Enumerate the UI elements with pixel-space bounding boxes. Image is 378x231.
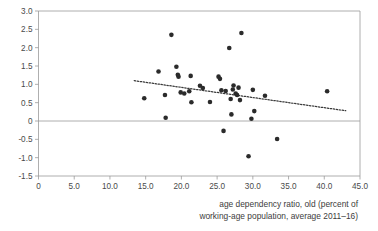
- y-tick-label: 3.0: [21, 7, 33, 16]
- data-point: [163, 93, 168, 98]
- scatter-chart: -1.5-1.0-0.500.51.01.52.02.53.0 05.010.0…: [0, 0, 378, 231]
- plot-frame: [39, 11, 361, 176]
- y-tick-label: 1.5: [21, 62, 33, 71]
- data-point: [174, 64, 179, 69]
- data-point: [231, 87, 236, 92]
- data-point: [251, 88, 256, 93]
- x-axis-tick-labels: 05.010.015.020.025.030.035.040.045.0: [36, 182, 368, 191]
- data-point: [231, 83, 236, 88]
- y-axis-ticks: [35, 11, 39, 176]
- data-point: [218, 77, 223, 82]
- y-tick-label: 2.0: [21, 44, 33, 53]
- data-point: [325, 89, 330, 94]
- data-point: [223, 89, 228, 94]
- data-point: [142, 96, 147, 101]
- x-tick-label: 15.0: [138, 182, 154, 191]
- data-point: [249, 117, 254, 122]
- x-tick-label: 30.0: [245, 182, 261, 191]
- y-tick-label: -0.5: [18, 135, 33, 144]
- data-point: [239, 31, 244, 36]
- data-point: [246, 154, 251, 159]
- x-axis-ticks: [39, 176, 361, 180]
- data-point: [169, 33, 174, 38]
- y-tick-label: 0.5: [21, 99, 33, 108]
- y-tick-label: -1.0: [18, 154, 33, 163]
- x-tick-label: 25.0: [209, 182, 225, 191]
- data-point: [229, 112, 234, 117]
- data-point: [201, 86, 206, 91]
- data-point: [163, 115, 168, 120]
- x-tick-label: 35.0: [281, 182, 297, 191]
- x-tick-label: 20.0: [173, 182, 189, 191]
- y-tick-label: 2.5: [21, 25, 33, 34]
- data-point: [228, 97, 233, 102]
- x-tick-label: 10.0: [102, 182, 118, 191]
- data-point: [252, 109, 257, 114]
- data-point: [182, 91, 187, 96]
- data-point: [263, 93, 268, 98]
- chart-canvas: -1.5-1.0-0.500.51.01.52.02.53.0 05.010.0…: [0, 0, 378, 231]
- data-point: [227, 46, 232, 51]
- x-axis-caption-line-2: working-age population, average 2011–16): [198, 211, 358, 221]
- data-point: [187, 89, 192, 94]
- data-point: [156, 69, 161, 74]
- data-point: [219, 88, 224, 93]
- data-point: [176, 74, 181, 79]
- data-point: [238, 98, 243, 103]
- y-tick-label: -1.5: [18, 172, 33, 181]
- data-point: [188, 74, 193, 79]
- x-tick-label: 40.0: [316, 182, 332, 191]
- data-point: [236, 85, 241, 90]
- y-tick-label: 0: [28, 117, 33, 126]
- data-point: [208, 100, 213, 105]
- data-point: [275, 137, 280, 142]
- x-tick-label: 5.0: [69, 182, 81, 191]
- x-axis-caption-line-1: age dependency ratio, old (percent of: [219, 199, 358, 209]
- y-tick-label: 1.0: [21, 80, 33, 89]
- x-tick-label: 0: [36, 182, 41, 191]
- data-point: [189, 100, 194, 105]
- data-points: [142, 31, 329, 159]
- y-axis-tick-labels: -1.5-1.0-0.500.51.01.52.02.53.0: [18, 7, 33, 181]
- data-point: [221, 129, 226, 134]
- data-point: [235, 93, 240, 98]
- x-tick-label: 45.0: [352, 182, 368, 191]
